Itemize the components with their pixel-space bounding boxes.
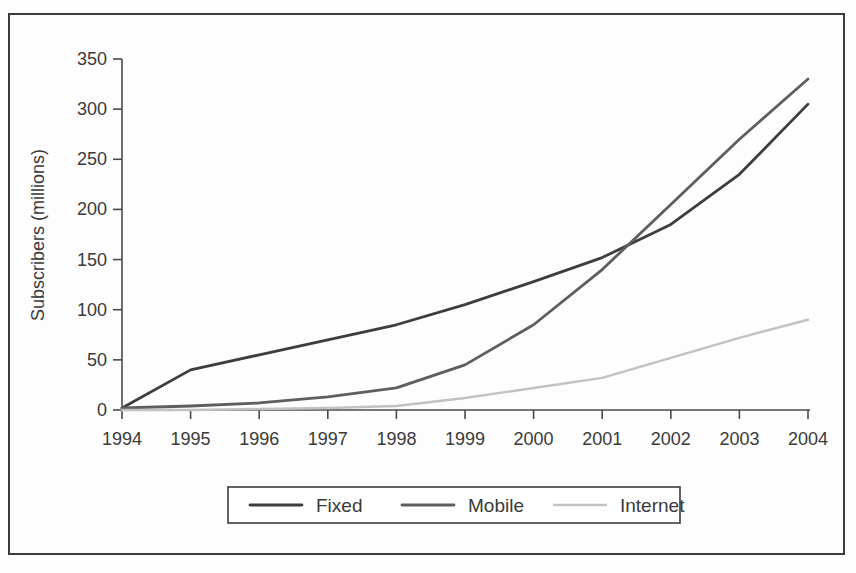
y-tick-label: 0 — [97, 400, 107, 420]
y-tick-label: 100 — [77, 300, 107, 320]
x-axis-ticks — [122, 410, 808, 419]
y-tick-label: 200 — [77, 199, 107, 219]
y-axis-tick-labels: 050100150200250300350 — [77, 49, 107, 420]
legend-label-mobile: Mobile — [468, 495, 524, 516]
x-tick-label: 1994 — [102, 429, 142, 449]
x-tick-label: 2004 — [788, 429, 828, 449]
x-tick-label: 1995 — [171, 429, 211, 449]
x-tick-label: 2000 — [514, 429, 554, 449]
data-series-group — [122, 79, 808, 410]
x-tick-label: 1996 — [239, 429, 279, 449]
y-axis-title: Subscribers (millions) — [28, 149, 48, 321]
x-tick-label: 1999 — [445, 429, 485, 449]
x-tick-label: 1998 — [376, 429, 416, 449]
line-chart-plot: 050100150200250300350 199419951996199719… — [0, 0, 856, 573]
x-tick-label: 1997 — [308, 429, 348, 449]
x-axis-tick-labels: 1994199519961997199819992000200120022003… — [102, 429, 828, 449]
x-tick-label: 2002 — [651, 429, 691, 449]
y-tick-label: 300 — [77, 99, 107, 119]
x-tick-label: 2003 — [719, 429, 759, 449]
y-tick-label: 150 — [77, 250, 107, 270]
legend-label-internet: Internet — [620, 495, 685, 516]
legend-items-group: FixedMobileInternet — [250, 495, 685, 516]
y-tick-label: 350 — [77, 49, 107, 69]
y-tick-label: 250 — [77, 149, 107, 169]
y-tick-label: 50 — [87, 350, 107, 370]
x-tick-label: 2001 — [582, 429, 622, 449]
chart-figure: 050100150200250300350 199419951996199719… — [0, 0, 856, 573]
legend-label-fixed: Fixed — [316, 495, 362, 516]
series-line-mobile — [122, 79, 808, 408]
y-axis-ticks — [113, 59, 122, 410]
series-line-fixed — [122, 104, 808, 408]
